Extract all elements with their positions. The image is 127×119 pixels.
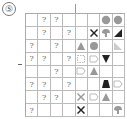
grid-cell-r3-c6 xyxy=(100,53,112,66)
question-mark: ? xyxy=(42,93,46,102)
grid-cell-r1-c0 xyxy=(26,27,38,40)
swirl-gray-icon xyxy=(113,105,123,115)
swirl-gray-icon xyxy=(101,28,111,38)
grid-cell-r2-c4 xyxy=(76,40,88,53)
grid-cell-r2-c3 xyxy=(63,40,75,53)
grid-cell-r2-c6 xyxy=(100,40,112,53)
grid-cell-r3-c3: ? xyxy=(63,53,75,66)
grid-cell-r5-c3: ? xyxy=(63,78,75,91)
question-mark: ? xyxy=(30,54,34,63)
grid-cell-r4-c2: ? xyxy=(51,66,63,79)
question-mark: ? xyxy=(67,80,71,89)
grid-cell-r1-c3: ? xyxy=(63,27,75,40)
question-mark: ? xyxy=(67,54,71,63)
grid-cell-r7-c5 xyxy=(88,104,100,117)
question-mark: ? xyxy=(42,15,46,24)
grid-cell-r7-c6 xyxy=(100,104,112,117)
grid-cell-r6-c5 xyxy=(88,91,100,104)
question-mark: ? xyxy=(30,106,34,115)
horizontal-axis-tick xyxy=(18,64,22,65)
grid-cell-r6-c2: ? xyxy=(51,91,63,104)
flower-gray-icon xyxy=(101,15,111,25)
x-black-icon xyxy=(76,105,86,115)
grid-cell-r7-c7 xyxy=(113,104,125,117)
x-black-icon xyxy=(89,28,99,38)
grid-cell-r0-c4 xyxy=(76,14,88,27)
outline-shape-icon xyxy=(113,79,123,89)
grid-cell-r6-c4 xyxy=(76,91,88,104)
triangle-up-gray-icon xyxy=(89,66,99,76)
grid-cell-r3-c7 xyxy=(113,53,125,66)
grid-cell-r1-c2 xyxy=(51,27,63,40)
puzzle-grid: ???????????????? xyxy=(25,13,125,117)
grid-cell-r1-c4 xyxy=(76,27,88,40)
grid-cell-r3-c4 xyxy=(76,53,88,66)
triangle-right-light-icon xyxy=(113,41,123,51)
grid-cell-r5-c7 xyxy=(113,78,125,91)
grid-cell-r2-c1 xyxy=(38,40,50,53)
grid-cell-r0-c1: ? xyxy=(38,14,50,27)
grid-cell-r6-c0 xyxy=(26,91,38,104)
grid-cell-r5-c0: ? xyxy=(26,78,38,91)
question-mark: ? xyxy=(42,80,46,89)
grid-cell-r3-c2 xyxy=(51,53,63,66)
question-mark: ? xyxy=(54,15,58,24)
grid-cell-r1-c6 xyxy=(100,27,112,40)
grid-cell-r1-c5 xyxy=(88,27,100,40)
bell-gray-icon xyxy=(76,41,86,51)
grid-cell-r5-c1: ? xyxy=(38,78,50,91)
grid-cell-r2-c5 xyxy=(88,40,100,53)
grid-cell-r4-c3 xyxy=(63,66,75,79)
flower-gray-icon xyxy=(113,15,123,25)
grid-cell-r2-c7 xyxy=(113,40,125,53)
grid-cell-r1-c7 xyxy=(113,27,125,40)
grid-cell-r4-c6 xyxy=(100,66,112,79)
grid-cell-r7-c3 xyxy=(63,104,75,117)
grid-cell-r2-c2: ? xyxy=(51,40,63,53)
grid-cell-r6-c6 xyxy=(100,91,112,104)
question-mark: ? xyxy=(42,54,46,63)
question-mark: ? xyxy=(42,28,46,37)
question-mark: ? xyxy=(30,41,34,50)
grid-cell-r3-c5 xyxy=(88,53,100,66)
grid-cell-r4-c7 xyxy=(113,66,125,79)
grid-cell-r4-c4 xyxy=(76,66,88,79)
grid-cell-r0-c6 xyxy=(100,14,112,27)
grid-cell-r6-c7 xyxy=(113,91,125,104)
grid-cell-r0-c2: ? xyxy=(51,14,63,27)
question-mark: ? xyxy=(54,67,58,76)
grid-cell-r2-c0: ? xyxy=(26,40,38,53)
puzzle-number-label: ⑤ xyxy=(2,2,16,16)
outline-dashed-icon xyxy=(76,54,86,64)
x-gray-icon xyxy=(76,92,86,102)
grid-cell-r7-c1 xyxy=(38,104,50,117)
grid-cell-r5-c2 xyxy=(51,78,63,91)
triangle-right-black-icon xyxy=(113,28,123,38)
trapezoid-black-icon xyxy=(101,79,111,89)
outline-shape-icon xyxy=(89,92,99,102)
grid-cell-r4-c0 xyxy=(26,66,38,79)
grid-cell-r5-c6 xyxy=(100,78,112,91)
grid-cell-r4-c1 xyxy=(38,66,50,79)
question-mark: ? xyxy=(54,41,58,50)
triangle-down-black-icon xyxy=(101,54,111,64)
outline-shape-icon xyxy=(89,54,99,64)
question-mark: ? xyxy=(30,80,34,89)
question-mark: ? xyxy=(54,93,58,102)
grid-cell-r6-c1: ? xyxy=(38,91,50,104)
grid-cell-r7-c2 xyxy=(51,104,63,117)
grid-cell-r3-c1: ? xyxy=(38,53,50,66)
grid-cell-r4-c5 xyxy=(88,66,100,79)
grid-cell-r6-c3 xyxy=(63,91,75,104)
grid-cell-r1-c1: ? xyxy=(38,27,50,40)
grid-cell-r3-c0: ? xyxy=(26,53,38,66)
grid-cell-r7-c0: ? xyxy=(26,104,38,117)
blob-gray-icon xyxy=(89,41,99,51)
grid-cell-r0-c5 xyxy=(88,14,100,27)
grid-cell-r7-c4 xyxy=(76,104,88,117)
grid-cell-r0-c0 xyxy=(26,14,38,27)
grid-cell-r5-c5 xyxy=(88,78,100,91)
grid-cell-r0-c3 xyxy=(63,14,75,27)
outline-shape-icon xyxy=(76,66,86,76)
grid-cell-r5-c4 xyxy=(76,78,88,91)
